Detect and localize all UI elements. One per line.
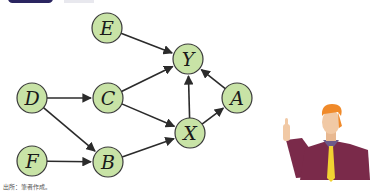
edge-d-to-b [43, 108, 95, 151]
edge-b-to-x [122, 139, 174, 157]
causal-graph: EYADCXFB [0, 0, 379, 194]
node-label: D [23, 87, 39, 109]
node-a: A [222, 83, 252, 113]
node-d: D [17, 83, 47, 113]
edge-f-to-b [47, 161, 91, 162]
node-b: B [93, 147, 123, 177]
node-label: E [99, 17, 114, 39]
edge-e-to-y [121, 33, 172, 53]
node-label: A [228, 87, 244, 109]
node-x: X [175, 118, 205, 148]
node-y: Y [173, 44, 203, 74]
pointing-businessman-illustration [283, 104, 370, 182]
edge-x-to-y [188, 76, 189, 118]
node-e: E [92, 13, 122, 43]
node-c: C [93, 83, 123, 113]
source-note: 出所：筆者作成。 [3, 182, 51, 191]
node-label: B [100, 151, 115, 173]
edge-a-to-y [201, 70, 225, 89]
edge-c-to-x [122, 104, 175, 126]
node-label: X [181, 122, 198, 144]
node-label: C [101, 87, 116, 109]
node-label: F [24, 150, 39, 172]
edge-c-to-y [121, 66, 172, 91]
edge-x-to-a [202, 108, 223, 124]
node-f: F [17, 146, 47, 176]
